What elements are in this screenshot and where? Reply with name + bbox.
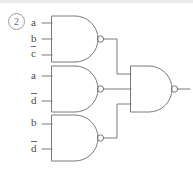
gate-nand-3 bbox=[42, 115, 104, 161]
wire-nand3-to-nandout bbox=[104, 104, 131, 138]
nand-1-body bbox=[52, 16, 98, 62]
gate-nand-out bbox=[131, 66, 190, 112]
gate-nand-1 bbox=[42, 16, 104, 62]
nand-2-body bbox=[52, 66, 98, 112]
gate-nand-2 bbox=[42, 66, 104, 112]
circuit-schematic bbox=[0, 0, 193, 172]
wire-nand1-to-nandout bbox=[104, 39, 131, 74]
nand-3-body bbox=[52, 115, 98, 161]
nand-out-body bbox=[131, 66, 172, 112]
circuit-diagram-figure: 2 a b c a d b d bbox=[0, 0, 193, 172]
